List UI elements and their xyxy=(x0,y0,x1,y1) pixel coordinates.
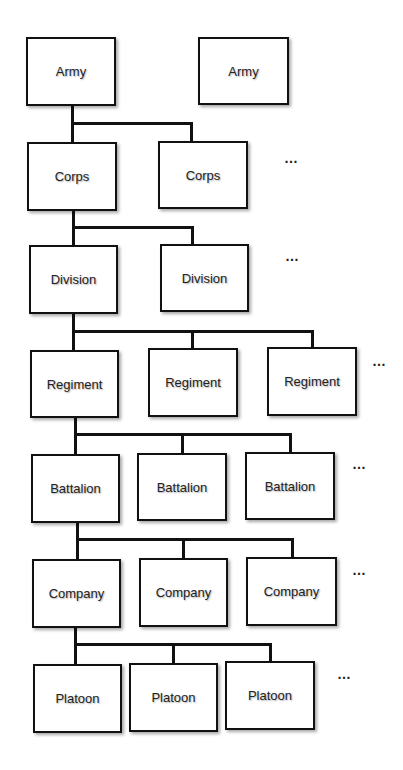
connector-line xyxy=(72,211,75,227)
division-node: Division xyxy=(29,245,118,314)
connector-line xyxy=(76,538,294,541)
connector-line xyxy=(191,227,194,244)
connector-line xyxy=(71,106,74,123)
regiment-label: Regiment xyxy=(165,375,221,390)
connector-line xyxy=(190,123,193,141)
connector-line xyxy=(76,523,79,539)
corps-label: Corps xyxy=(186,168,221,183)
regiment-node: Regiment xyxy=(148,348,238,417)
battalion-label: Battalion xyxy=(50,481,101,496)
connector-line xyxy=(311,331,314,347)
connector-line xyxy=(72,226,194,229)
connector-line xyxy=(191,331,194,348)
company-ellipsis: … xyxy=(352,562,367,578)
regiment-node: Regiment xyxy=(267,347,357,416)
connector-line xyxy=(172,644,175,663)
connector-line xyxy=(72,314,75,331)
platoon-ellipsis: … xyxy=(337,666,352,682)
division-node: Division xyxy=(160,244,249,312)
connector-line xyxy=(269,644,272,661)
connector-line xyxy=(182,539,185,558)
platoon-node: Platoon xyxy=(33,664,122,733)
company-node: Company xyxy=(139,558,228,627)
division-label: Division xyxy=(182,271,228,286)
company-label: Company xyxy=(156,585,212,600)
division-ellipsis: … xyxy=(285,248,300,264)
platoon-node: Platoon xyxy=(225,661,315,730)
connector-line xyxy=(71,123,74,142)
regiment-label: Regiment xyxy=(47,377,103,392)
battalion-node: Battalion xyxy=(31,454,120,523)
army-node: Army xyxy=(26,37,116,106)
corps-ellipsis: … xyxy=(284,150,299,166)
company-label: Company xyxy=(49,586,105,601)
army-node: Army xyxy=(198,37,289,105)
company-node: Company xyxy=(246,557,337,626)
army-label: Army xyxy=(228,64,258,79)
battalion-label: Battalion xyxy=(157,480,208,495)
corps-node: Corps xyxy=(27,142,117,211)
company-node: Company xyxy=(32,559,121,628)
company-label: Company xyxy=(264,584,320,599)
platoon-label: Platoon xyxy=(248,688,292,703)
platoon-label: Platoon xyxy=(151,690,195,705)
connector-line xyxy=(74,628,77,644)
corps-label: Corps xyxy=(55,169,90,184)
connector-line xyxy=(76,539,79,559)
regiment-node: Regiment xyxy=(30,350,119,418)
platoon-node: Platoon xyxy=(129,663,218,732)
platoon-label: Platoon xyxy=(55,691,99,706)
division-label: Division xyxy=(51,272,97,287)
corps-node: Corps xyxy=(158,141,248,209)
connector-line xyxy=(71,122,193,125)
battalion-node: Battalion xyxy=(137,453,227,521)
connector-line xyxy=(74,644,77,664)
battalion-ellipsis: … xyxy=(352,456,367,472)
connector-line xyxy=(74,434,77,454)
connector-line xyxy=(74,418,77,434)
connector-line xyxy=(72,227,75,245)
battalion-label: Battalion xyxy=(265,479,316,494)
army-label: Army xyxy=(56,64,86,79)
connector-line xyxy=(291,539,294,557)
regiment-ellipsis: … xyxy=(372,353,387,369)
connector-line xyxy=(289,434,292,452)
connector-line xyxy=(181,434,184,453)
regiment-label: Regiment xyxy=(284,374,340,389)
connector-line xyxy=(72,331,75,350)
battalion-node: Battalion xyxy=(245,452,335,520)
